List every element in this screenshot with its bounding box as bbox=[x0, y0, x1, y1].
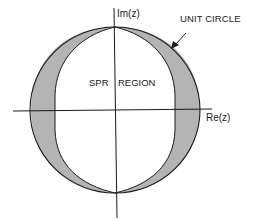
imaginary-axis-label: Im(z) bbox=[117, 9, 140, 19]
region-label: REGION bbox=[118, 78, 155, 88]
unit-circle-label: UNIT CIRCLE bbox=[180, 14, 241, 24]
spr-label: SPR bbox=[89, 78, 109, 88]
unit-circle-pointer-line bbox=[175, 33, 186, 45]
complex-plane-diagram bbox=[0, 0, 255, 220]
real-axis-label: Re(z) bbox=[206, 113, 230, 123]
imaginary-axis bbox=[114, 8, 117, 218]
